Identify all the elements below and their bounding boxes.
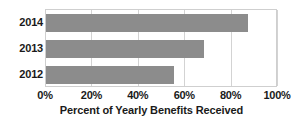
x-tick-label: 80% xyxy=(211,89,251,101)
x-axis-title: Percent of Yearly Benefits Received xyxy=(0,104,303,116)
bar-fill xyxy=(46,66,174,84)
bar-fill xyxy=(46,40,204,58)
category-label: 2014 xyxy=(3,13,43,31)
category-label: 2012 xyxy=(3,65,43,83)
bar xyxy=(46,40,204,58)
x-tick-label: 60% xyxy=(164,89,204,101)
category-label: 2013 xyxy=(3,39,43,57)
x-tick-label: 20% xyxy=(71,89,111,101)
bar-fill xyxy=(46,14,248,32)
x-tick-label: 40% xyxy=(118,89,158,101)
x-tick-label: 0% xyxy=(25,89,65,101)
plot-area xyxy=(45,9,277,87)
bar xyxy=(46,66,174,84)
gridline xyxy=(277,10,278,86)
bar-chart: 201420132012 0%20%40%60%80%100% Percent … xyxy=(0,0,303,125)
x-tick-label: 100% xyxy=(257,89,297,101)
bar xyxy=(46,14,248,32)
